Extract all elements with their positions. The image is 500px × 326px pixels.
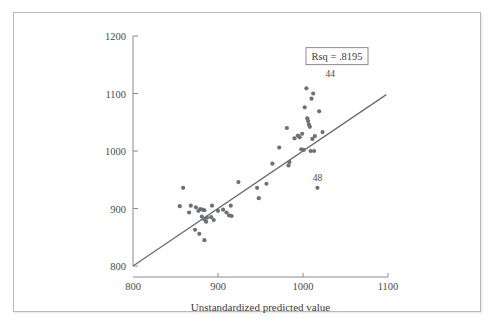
x-tick-label: 1100 xyxy=(378,281,399,292)
data-point xyxy=(320,130,324,134)
data-point xyxy=(181,186,185,190)
annotation-group: Rsq = .8195 xyxy=(306,48,368,65)
data-point xyxy=(178,204,182,208)
data-point xyxy=(304,86,308,90)
data-point xyxy=(317,109,321,113)
data-point xyxy=(311,91,315,95)
data-point xyxy=(236,180,240,184)
data-point-label: 48 xyxy=(313,173,323,183)
axes-group: 80090010001100120080090010001100 xyxy=(105,31,398,292)
data-point xyxy=(270,162,274,166)
data-point xyxy=(302,148,306,152)
y-tick-label: 1000 xyxy=(105,146,126,157)
x-tick-label: 1000 xyxy=(293,281,314,292)
data-point xyxy=(216,209,220,213)
data-points-group xyxy=(178,86,325,242)
data-point xyxy=(221,208,225,212)
data-point xyxy=(229,204,233,208)
data-point xyxy=(204,220,208,224)
x-axis-title: Unstandardized predicted value xyxy=(191,301,330,313)
axis-title-group: Unstandardized predicted value xyxy=(191,301,330,313)
regression-line-group xyxy=(133,95,386,266)
data-point xyxy=(308,125,312,129)
y-tick-label: 1200 xyxy=(105,31,126,42)
annotation-text: Rsq = .8195 xyxy=(311,51,362,62)
data-point xyxy=(202,208,206,212)
data-point xyxy=(303,105,307,109)
data-point xyxy=(277,145,281,149)
chart-canvas: 80090010001100120080090010001100 4448 Rs… xyxy=(14,13,482,313)
data-point xyxy=(187,210,191,214)
data-point xyxy=(309,97,313,101)
data-point xyxy=(315,186,319,190)
scatter-plot: 80090010001100120080090010001100 4448 Rs… xyxy=(14,13,482,313)
page-background: 80090010001100120080090010001100 4448 Rs… xyxy=(0,0,500,326)
data-point xyxy=(193,228,197,232)
data-point xyxy=(257,196,261,200)
data-point xyxy=(202,238,206,242)
data-point xyxy=(286,163,290,167)
data-point xyxy=(310,137,314,141)
data-point xyxy=(197,232,201,236)
document-frame: 80090010001100120080090010001100 4448 Rs… xyxy=(13,12,481,312)
data-point xyxy=(300,132,304,136)
data-point xyxy=(205,216,209,220)
data-point xyxy=(298,135,302,139)
y-tick-label: 800 xyxy=(110,261,126,272)
y-tick-label: 900 xyxy=(110,204,126,215)
x-tick-label: 800 xyxy=(125,281,141,292)
x-tick-label: 900 xyxy=(210,281,226,292)
data-point xyxy=(212,218,216,222)
data-point xyxy=(264,182,268,186)
data-point xyxy=(194,205,198,209)
data-point xyxy=(292,136,296,140)
data-point xyxy=(255,186,259,190)
regression-line xyxy=(133,95,386,266)
data-point xyxy=(189,204,193,208)
data-point xyxy=(285,126,289,130)
data-point-label: 44 xyxy=(325,69,335,79)
data-point xyxy=(210,204,214,208)
data-point xyxy=(230,214,234,218)
data-point xyxy=(312,149,316,153)
point-labels-group: 4448 xyxy=(313,69,336,182)
y-tick-label: 1100 xyxy=(105,89,126,100)
